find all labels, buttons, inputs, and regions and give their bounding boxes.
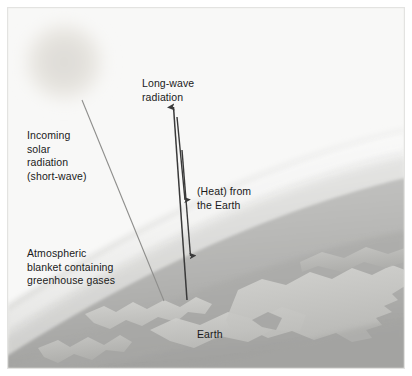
- greenhouse-effect-figure: Incoming solar radiation (short-wave) Lo…: [0, 0, 412, 376]
- sun: [19, 17, 109, 107]
- label-long-wave-radiation: Long-wave radiation: [142, 77, 194, 104]
- label-heat-from-the-earth: (Heat) from the Earth: [197, 185, 251, 212]
- label-earth: Earth: [197, 328, 223, 342]
- label-incoming-solar-radiation: Incoming solar radiation (short-wave): [27, 129, 87, 183]
- label-atmospheric-blanket: Atmospheric blanket containing greenhous…: [27, 247, 115, 288]
- sun-disc: [19, 17, 109, 107]
